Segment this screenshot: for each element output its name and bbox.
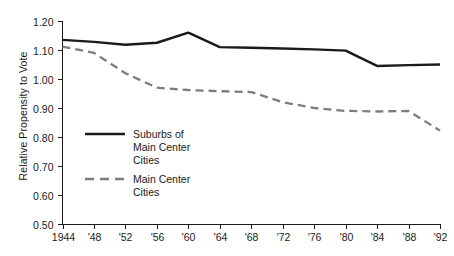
x-tick-label: '84 (371, 231, 385, 243)
x-tick-label: '68 (245, 231, 259, 243)
y-tick-label: 0.50 (33, 219, 54, 231)
legend-label-suburbs-line2: Main Center (133, 141, 191, 153)
x-tick-label: 1944 (52, 231, 76, 243)
legend-label-suburbs-line3: Cities (133, 154, 159, 166)
x-tick-label: '72 (277, 231, 291, 243)
x-tick-label: '76 (308, 231, 322, 243)
chart-container: Relative Propensity to Vote 0.500.600.70… (0, 0, 454, 256)
y-tick-label: 0.80 (33, 132, 54, 144)
data-series-group (63, 33, 441, 131)
x-tick-label: '56 (151, 231, 165, 243)
series-line-main-center (63, 47, 441, 131)
series-line-suburbs (63, 33, 441, 66)
legend-label-main-center-line1: Main Center (133, 173, 191, 185)
legend-label-suburbs-line1: Suburbs of (133, 128, 184, 140)
x-tick-label: '88 (403, 231, 417, 243)
y-tick-label: 0.90 (33, 103, 54, 115)
x-tick-label: '52 (119, 231, 133, 243)
legend-label-main-center-line2: Cities (133, 186, 159, 198)
y-axis-tick-labels: 0.500.600.700.800.901.001.101.20 (33, 16, 54, 231)
x-tick-label: '60 (182, 231, 196, 243)
y-tick-label: 1.20 (33, 16, 54, 28)
x-axis-tick-labels: 1944'48'52'56'60'64'68'72'76'80'84'88'92 (52, 231, 448, 243)
chart-plot-area: 0.500.600.700.800.901.001.101.20 1944'48… (0, 0, 454, 256)
y-tick-label: 0.70 (33, 161, 54, 173)
x-tick-label: '80 (340, 231, 354, 243)
x-tick-label: '48 (88, 231, 102, 243)
y-axis-ticks (58, 22, 63, 225)
y-tick-label: 0.60 (33, 190, 54, 202)
y-tick-label: 1.00 (33, 74, 54, 86)
x-tick-label: '64 (214, 231, 228, 243)
x-tick-label: '92 (434, 231, 448, 243)
chart-legend: Suburbs of Main Center Cities Main Cente… (85, 128, 191, 198)
y-tick-label: 1.10 (33, 45, 54, 57)
